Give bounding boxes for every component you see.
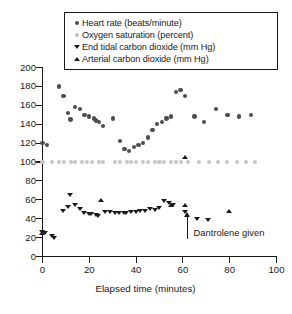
arterial-co2-point	[98, 198, 104, 202]
heart-rate-point	[155, 122, 159, 126]
y-axis-tick-label: 160	[2, 100, 36, 110]
y-axis-tick-label: 140	[2, 119, 36, 129]
end-tidal-co2-point	[95, 214, 101, 218]
heart-rate-point	[111, 116, 115, 120]
chart-figure: Heart rate (beats/minute) Oxygen saturat…	[0, 0, 291, 314]
heart-rate-point	[136, 143, 140, 147]
heart-rate-point	[66, 111, 70, 115]
y-axis-tick	[36, 124, 42, 125]
heart-rate-point	[141, 141, 145, 145]
oxygen-saturation-point	[40, 160, 44, 164]
end-tidal-co2-point	[51, 236, 57, 240]
oxygen-saturation-point	[101, 160, 105, 164]
end-tidal-co2-point	[194, 217, 200, 221]
y-axis-tick-label: 40	[2, 214, 36, 224]
oxygen-saturation-point	[129, 160, 133, 164]
heart-rate-point	[225, 113, 229, 117]
y-axis-tick-label: 60	[2, 195, 36, 205]
y-axis-tick	[36, 86, 42, 87]
y-axis-tick-label: 0	[2, 252, 36, 262]
oxygen-saturation-point	[157, 160, 161, 164]
x-axis-tick	[136, 257, 137, 263]
oxygen-saturation-point	[162, 160, 166, 164]
oxygen-saturation-point	[197, 160, 201, 164]
oxygen-saturation-point	[179, 160, 183, 164]
heart-rate-point	[57, 84, 61, 88]
arterial-co2-point	[182, 155, 188, 159]
y-axis-tick-label: 100	[2, 157, 36, 167]
heart-rate-point	[118, 139, 122, 143]
x-axis-tick	[89, 257, 90, 263]
heart-rate-point	[164, 116, 168, 120]
oxygen-saturation-point	[207, 160, 211, 164]
heart-rate-point	[169, 114, 173, 118]
y-axis-tick-label: 200	[2, 63, 36, 73]
oxygen-saturation-point	[113, 160, 117, 164]
oxygen-saturation-point	[62, 160, 66, 164]
end-tidal-co2-point	[65, 205, 71, 209]
y-axis-tick	[36, 180, 42, 181]
oxygen-saturation-point	[235, 160, 239, 164]
heart-rate-point	[82, 113, 86, 117]
y-axis-tick-label: 180	[2, 81, 36, 91]
oxygen-saturation-point	[186, 160, 190, 164]
oxygen-saturation-point	[225, 160, 229, 164]
plot-area: 020406080100120140160180200 020406080100…	[0, 0, 291, 314]
x-axis-tick-label: 100	[260, 265, 292, 275]
end-tidal-co2-point	[67, 193, 73, 197]
y-axis-tick	[36, 67, 42, 68]
heart-rate-point	[192, 114, 196, 118]
x-axis-tick-label: 40	[119, 265, 153, 275]
oxygen-saturation-point	[141, 160, 145, 164]
end-tidal-co2-point	[156, 206, 162, 210]
oxygen-saturation-point	[169, 160, 173, 164]
oxygen-saturation-point	[69, 160, 73, 164]
oxygen-saturation-point	[244, 160, 248, 164]
oxygen-saturation-point	[50, 160, 54, 164]
heart-rate-point	[68, 117, 72, 121]
heart-rate-point	[73, 105, 77, 109]
x-axis-tick-label: 60	[166, 265, 200, 275]
heart-rate-point	[150, 128, 154, 132]
heart-rate-point	[249, 113, 253, 117]
heart-rate-point	[214, 107, 218, 111]
heart-rate-point	[183, 94, 187, 98]
heart-rate-point	[45, 143, 49, 147]
y-axis-tick	[36, 105, 42, 106]
heart-rate-point	[97, 120, 101, 124]
heart-rate-point	[61, 94, 65, 98]
heart-rate-point	[40, 141, 44, 145]
heart-rate-point	[122, 147, 126, 151]
oxygen-saturation-point	[134, 160, 138, 164]
oxygen-saturation-point	[146, 160, 150, 164]
oxygen-saturation-point	[216, 160, 220, 164]
oxygen-saturation-point	[80, 160, 84, 164]
heart-rate-point	[146, 135, 150, 139]
arterial-co2-point	[39, 231, 45, 235]
heart-rate-point	[127, 149, 131, 153]
y-axis-tick-label: 120	[2, 138, 36, 148]
y-axis-tick-label: 80	[2, 176, 36, 186]
heart-rate-point	[178, 88, 182, 92]
x-axis-tick	[42, 257, 43, 263]
heart-rate-point	[237, 114, 241, 118]
heart-rate-point	[87, 114, 91, 118]
heart-rate-point	[78, 107, 82, 111]
end-tidal-co2-point	[60, 209, 66, 213]
oxygen-saturation-point	[253, 160, 257, 164]
oxygen-saturation-point	[118, 160, 122, 164]
x-axis-tick	[276, 257, 277, 263]
dantrolene-annotation-label: Dantrolene given	[194, 227, 265, 238]
x-axis-tick-label: 20	[72, 265, 106, 275]
end-tidal-co2-point	[205, 218, 211, 222]
x-axis-tick-label: 80	[213, 265, 247, 275]
arterial-co2-point	[226, 209, 232, 213]
oxygen-saturation-point	[85, 160, 89, 164]
x-axis-tick	[182, 257, 183, 263]
oxygen-saturation-point	[153, 160, 157, 164]
arterial-co2-point	[168, 203, 174, 207]
x-axis-tick-label: 0	[26, 265, 60, 275]
x-axis-tick	[229, 257, 230, 263]
oxygen-saturation-point	[73, 160, 77, 164]
arterial-co2-point	[182, 203, 188, 207]
